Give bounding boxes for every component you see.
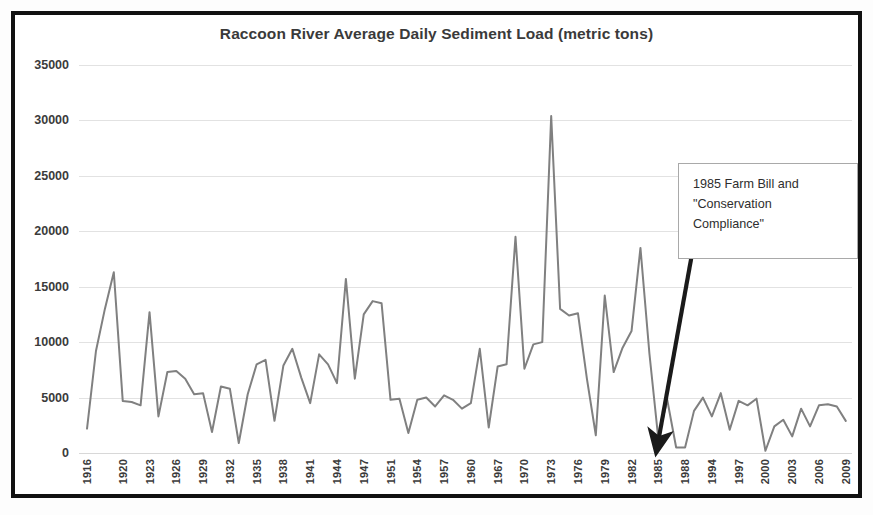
annotation-textbox: 1985 Farm Bill and "Conservation Complia… xyxy=(678,163,858,259)
arrow-line xyxy=(658,254,692,441)
annotation-line-2: "Conservation xyxy=(693,194,845,214)
annotation-line-1: 1985 Farm Bill and xyxy=(693,174,845,194)
annotation-line-3: Compliance" xyxy=(693,214,845,234)
screenshot-page: Raccoon River Average Daily Sediment Loa… xyxy=(0,0,873,515)
chart-frame: Raccoon River Average Daily Sediment Loa… xyxy=(11,11,862,498)
chart-canvas: Raccoon River Average Daily Sediment Loa… xyxy=(15,15,858,494)
